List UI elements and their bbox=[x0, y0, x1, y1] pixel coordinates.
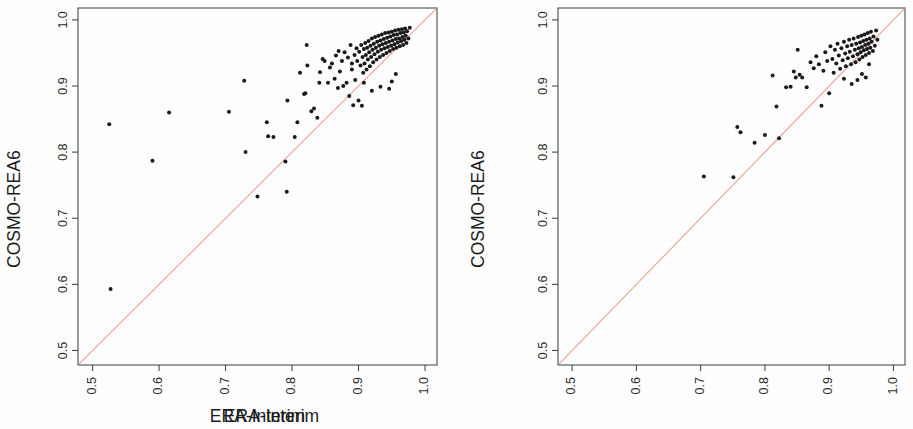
data-point bbox=[334, 54, 338, 58]
data-point bbox=[834, 62, 838, 66]
data-point bbox=[265, 120, 269, 124]
y-tick-label: 1.0 bbox=[56, 11, 70, 28]
data-point bbox=[293, 135, 297, 139]
data-point bbox=[338, 69, 342, 73]
reference-line-right bbox=[558, 8, 905, 365]
y-tick-label: 1.0 bbox=[536, 11, 550, 28]
data-point bbox=[373, 52, 377, 56]
data-layer-left bbox=[78, 8, 437, 365]
data-point bbox=[814, 54, 818, 58]
data-point bbox=[870, 40, 874, 44]
data-point bbox=[355, 46, 359, 50]
data-point bbox=[323, 59, 327, 63]
data-point bbox=[809, 60, 813, 64]
data-point bbox=[285, 99, 289, 103]
data-point bbox=[869, 30, 873, 34]
data-point bbox=[362, 81, 366, 85]
figure-scatter-comparison: 0.50.60.70.80.91.00.50.60.70.80.91.0 COS… bbox=[0, 0, 913, 429]
data-point bbox=[390, 79, 394, 83]
data-point bbox=[796, 48, 800, 52]
data-point bbox=[328, 66, 332, 70]
data-point bbox=[357, 99, 361, 103]
data-point bbox=[860, 72, 864, 76]
data-point bbox=[357, 50, 361, 54]
data-point bbox=[851, 54, 855, 58]
data-point bbox=[366, 58, 370, 62]
data-point bbox=[333, 77, 337, 81]
data-point bbox=[347, 94, 351, 98]
data-point bbox=[819, 104, 823, 108]
data-point bbox=[351, 103, 355, 107]
data-point bbox=[350, 62, 354, 66]
data-point bbox=[771, 73, 775, 77]
data-point bbox=[359, 43, 363, 47]
data-point bbox=[381, 53, 385, 57]
data-point bbox=[378, 55, 382, 59]
data-point bbox=[846, 56, 850, 60]
y-axis-title-left: COSMO-REA6 bbox=[4, 150, 25, 268]
reference-line-left bbox=[78, 8, 437, 365]
data-point bbox=[365, 46, 369, 50]
data-point bbox=[388, 49, 392, 53]
y-tick-label: 0.5 bbox=[56, 342, 70, 359]
data-point bbox=[365, 67, 369, 71]
data-point bbox=[244, 150, 248, 154]
data-point bbox=[227, 110, 231, 114]
data-point bbox=[363, 62, 367, 66]
data-point bbox=[364, 53, 368, 57]
y-tick-label: 0.7 bbox=[536, 210, 550, 227]
data-point bbox=[361, 71, 365, 75]
y-tick-label: 0.9 bbox=[536, 77, 550, 94]
data-point bbox=[805, 85, 809, 89]
x-tick-label: 0.9 bbox=[821, 377, 835, 394]
x-tick-label: 1.0 bbox=[417, 377, 431, 394]
scatter-points-right bbox=[702, 28, 880, 179]
data-point bbox=[375, 58, 379, 62]
data-point bbox=[874, 28, 878, 32]
data-point bbox=[387, 87, 391, 91]
data-point bbox=[830, 57, 834, 61]
data-point bbox=[845, 44, 849, 48]
data-point bbox=[738, 130, 742, 134]
data-point bbox=[394, 72, 398, 76]
data-point bbox=[406, 36, 410, 40]
data-point bbox=[812, 66, 816, 70]
x-tick-label: 0.6 bbox=[629, 377, 643, 394]
data-point bbox=[350, 67, 354, 71]
x-tick-label: 0.9 bbox=[351, 377, 365, 394]
data-point bbox=[107, 122, 111, 126]
data-point bbox=[842, 77, 846, 81]
data-point bbox=[371, 60, 375, 64]
data-point bbox=[848, 50, 852, 54]
data-point bbox=[353, 53, 357, 57]
data-point bbox=[868, 46, 872, 50]
data-point bbox=[312, 106, 316, 110]
data-point bbox=[836, 42, 840, 46]
data-point bbox=[372, 42, 376, 46]
data-point bbox=[295, 120, 299, 124]
y-tick-label: 0.8 bbox=[536, 143, 550, 160]
data-point bbox=[353, 78, 357, 82]
data-point bbox=[368, 64, 372, 68]
data-point bbox=[367, 50, 371, 54]
data-point bbox=[360, 104, 364, 108]
data-point bbox=[735, 125, 739, 129]
data-point bbox=[330, 62, 334, 66]
data-point bbox=[875, 38, 879, 42]
data-point bbox=[369, 55, 373, 59]
data-point bbox=[376, 50, 380, 54]
panel-left: 0.50.60.70.80.91.00.50.60.70.80.91.0 COS… bbox=[0, 0, 460, 429]
data-point bbox=[854, 60, 858, 64]
data-point bbox=[827, 91, 831, 95]
data-point bbox=[784, 85, 788, 89]
y-tick-label: 0.9 bbox=[56, 77, 70, 94]
x-axis-title-right: ERA-Interim bbox=[98, 406, 445, 427]
data-point bbox=[298, 71, 302, 75]
x-tick-label: 0.8 bbox=[757, 377, 771, 394]
x-tick-label: 1.0 bbox=[886, 377, 900, 394]
x-tick-label: 0.8 bbox=[284, 377, 298, 394]
data-point bbox=[854, 42, 858, 46]
x-tick-label: 0.6 bbox=[151, 377, 165, 394]
data-point bbox=[867, 62, 871, 66]
data-point bbox=[842, 40, 846, 44]
